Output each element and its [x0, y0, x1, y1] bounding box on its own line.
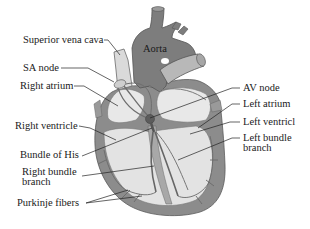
bundle-of-his-label: Bundle of His: [20, 150, 79, 160]
av-node-label: AV node: [243, 83, 280, 93]
left-bundle-branch-line2: branch: [243, 142, 272, 153]
left-atrium-label: Left atrium: [243, 99, 291, 109]
left-ventricle-label: Left ventricl: [243, 117, 295, 127]
right-atrium-label: Right atrium: [20, 81, 73, 91]
right-bundle-branch-label: Right bundle branch: [22, 167, 77, 186]
right-ventricle-label: Right ventricle: [15, 121, 78, 131]
purkinje-fibers-label: Purkinje fibers: [17, 198, 79, 208]
left-bundle-branch-label: Left bundle branch: [243, 133, 292, 152]
heart-conduction-diagram: Aorta Superior vena cava SA node Right a…: [0, 0, 310, 229]
sa-node-label: SA node: [23, 63, 59, 73]
av-node-shape: [146, 115, 155, 124]
aorta-label: Aorta: [143, 43, 167, 54]
right-bundle-branch-line2: branch: [22, 176, 51, 187]
superior-vena-cava-label: Superior vena cava: [23, 35, 103, 45]
left-atrium-chamber: [157, 88, 211, 122]
